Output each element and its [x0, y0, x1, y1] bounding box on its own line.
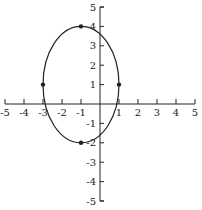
y-tick-label: 5 — [90, 2, 96, 13]
data-points — [41, 24, 121, 145]
y-tick-label: 2 — [90, 60, 96, 71]
point-marker — [41, 82, 45, 86]
coordinate-plane: -5-4-3-2-11234554321-1-2-3-4-5 — [0, 0, 202, 210]
ellipse-curve — [43, 26, 119, 142]
ellipse — [43, 26, 119, 142]
y-tick-label: -3 — [86, 157, 96, 168]
y-tick-label: 1 — [90, 79, 96, 90]
point-marker — [79, 24, 83, 28]
y-tick-label: -4 — [86, 176, 96, 187]
x-tick-label: -1 — [76, 107, 86, 118]
x-tick-label: -5 — [0, 107, 10, 118]
x-tick-label: -4 — [19, 107, 29, 118]
x-tick-label: 1 — [116, 107, 122, 118]
point-marker — [117, 82, 121, 86]
x-tick-label: 5 — [192, 107, 198, 118]
y-tick-label: -5 — [86, 196, 96, 207]
x-tick-label: 4 — [173, 107, 179, 118]
x-tick-label: -2 — [57, 107, 67, 118]
x-tick-label: 2 — [135, 107, 141, 118]
point-marker — [79, 141, 83, 145]
y-tick-label: 3 — [90, 40, 96, 51]
x-tick-label: 3 — [154, 107, 160, 118]
axes — [5, 7, 195, 201]
y-tick-label: -1 — [86, 118, 96, 129]
